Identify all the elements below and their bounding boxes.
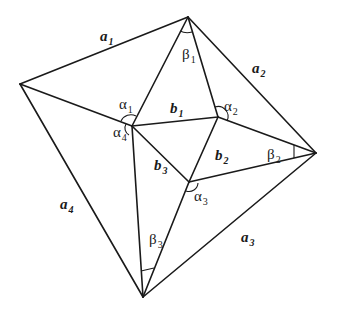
diagram-canvas: a1a2a3a4b1b2b3α1α2α3α4β1β2β3 <box>0 0 339 319</box>
edge-a2 <box>188 17 316 153</box>
edge-b3 <box>132 126 189 182</box>
quadrilateral-figure: a1a2a3a4b1b2b3α1α2α3α4β1β2β3 <box>0 0 339 319</box>
edge-R-P3 <box>189 153 316 182</box>
edge-b1 <box>132 117 218 126</box>
angle-label-beta3: β3 <box>149 231 163 250</box>
angle-label-alpha1: α1 <box>119 96 133 115</box>
side-label-b2: b2 <box>215 147 229 166</box>
labels-group: a1a2a3a4b1b2b3α1α2α3α4β1β2β3 <box>60 28 281 250</box>
angle-label-beta1: β1 <box>182 46 196 65</box>
side-label-a3: a3 <box>241 229 255 248</box>
edge-b2 <box>189 117 218 182</box>
angle-arc-alpha1 <box>121 115 136 121</box>
angle-label-alpha2: α2 <box>224 98 238 117</box>
side-label-b1: b1 <box>170 100 184 119</box>
angle-label-alpha3: α3 <box>194 188 208 207</box>
side-label-a1: a1 <box>100 28 114 47</box>
angle-arc-beta1 <box>180 31 192 33</box>
side-label-a4: a4 <box>60 196 74 215</box>
edge-a3 <box>143 153 316 297</box>
side-label-a2: a2 <box>252 60 266 79</box>
edge-a4 <box>20 84 143 297</box>
edge-L-P1 <box>20 84 132 126</box>
angle-arc-beta3 <box>141 268 154 271</box>
